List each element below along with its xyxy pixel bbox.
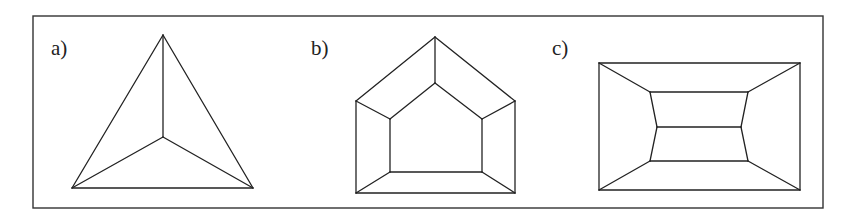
panel-c-label: c) (552, 38, 568, 59)
panel-b-label: b) (311, 38, 329, 59)
edge-o_br-i_br (482, 172, 515, 193)
edge-o_left-i_left (356, 101, 390, 119)
edge-o_tl-i_tl (599, 63, 650, 92)
edge-o_bl-i_bl (356, 172, 390, 193)
panel-a-label: a) (51, 38, 67, 59)
edge-i_tr-m_r (741, 92, 748, 127)
edge-apex-bottom_right (163, 35, 253, 188)
panel-b-pentagon-graph (356, 37, 515, 193)
figure-frame (33, 16, 823, 208)
edge-o_right-i_right (482, 101, 515, 119)
edge-apex-bottom_left (72, 35, 163, 188)
edge-i_bl-m_l (650, 127, 657, 161)
panel-a-triangle-graph (72, 35, 253, 188)
edge-o_bl-i_bl (599, 161, 650, 190)
edge-i_apex-i_left (390, 83, 435, 119)
edge-m_l-i_tl (650, 92, 657, 127)
edge-bottom_left-center (72, 137, 163, 188)
panel-c-rectangle-graph (599, 63, 800, 190)
diagram-canvas (0, 0, 858, 213)
edge-o_apex-o_left (356, 37, 435, 101)
edge-o_br-i_br (748, 161, 800, 190)
edge-o_tr-i_tr (748, 63, 800, 92)
edge-i_apex-i_right (435, 83, 482, 119)
edge-m_r-i_br (741, 127, 748, 161)
edge-bottom_right-center (163, 137, 253, 188)
